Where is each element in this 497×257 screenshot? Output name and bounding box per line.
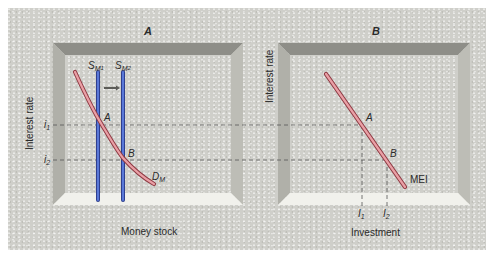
panel-b-x-axis-label: Investment bbox=[351, 227, 400, 238]
panel-a-title: A bbox=[143, 25, 152, 37]
money-market-investment-diagram: A B Interest rate Interest rate Money st… bbox=[0, 0, 497, 257]
panel-b-y-axis-label: Interest rate bbox=[264, 49, 275, 103]
panel-b-point-a: A bbox=[365, 112, 373, 123]
dm-label: DM bbox=[152, 171, 165, 183]
panel-b-frame bbox=[278, 43, 470, 205]
sm2-label: SM2 bbox=[115, 60, 132, 72]
I2-label: I2 bbox=[383, 208, 390, 220]
panel-a-x-axis-label: Money stock bbox=[121, 226, 178, 237]
panel-a-point-a: A bbox=[103, 112, 111, 123]
panel-a-point-b: B bbox=[128, 148, 135, 159]
supply-shift-arrow-icon bbox=[104, 86, 120, 91]
i2-label: i2 bbox=[44, 154, 50, 166]
I1-label: I1 bbox=[358, 208, 365, 220]
panel-a-y-axis-label: Interest rate bbox=[24, 96, 35, 150]
sm1-label: SM1 bbox=[88, 60, 104, 72]
i1-label: i1 bbox=[44, 119, 50, 131]
mei-label: MEI bbox=[410, 174, 428, 185]
mei-curve bbox=[326, 74, 405, 187]
panel-b-title: B bbox=[372, 25, 380, 37]
panel-b-point-b: B bbox=[390, 148, 397, 159]
